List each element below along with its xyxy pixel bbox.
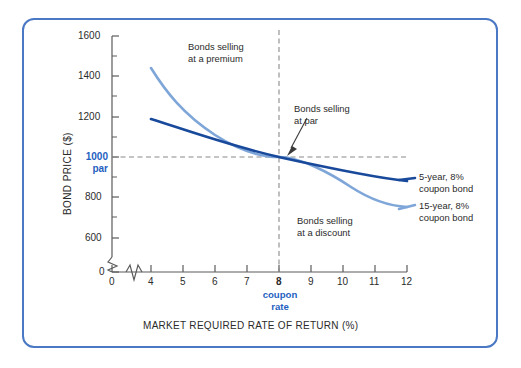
x-major-ticks (112, 265, 407, 272)
x-tick-7: 7 (244, 276, 250, 287)
x-tick-9: 9 (308, 276, 314, 287)
x-axis-title: MARKET REQUIRED RATE OF RETURN (%) (143, 320, 358, 331)
bond-price-figure: 1600 1400 1200 1000par 800 600 0 0 4 5 6… (0, 0, 521, 368)
rate-word: rate (271, 301, 289, 312)
annotation-discount: Bonds selling at a discount (297, 215, 353, 239)
legend-swatch-5-year (399, 178, 415, 180)
y-tick-0: 0 (99, 266, 105, 277)
x-tick-10: 10 (337, 276, 348, 287)
y-tick-1000-par: 1000par (68, 151, 108, 175)
y-axis-title: BOND PRICE ($) (62, 132, 73, 215)
coupon-word: coupon (263, 289, 298, 300)
x-tick-8-coupon: 8 (276, 276, 282, 287)
y-tick-1200: 1200 (78, 111, 100, 122)
par-word: par (92, 163, 108, 174)
annotation-premium: Bonds selling at a premium (188, 41, 244, 65)
annotation-par: Bonds selling at par (294, 103, 350, 127)
y-tick-1600: 1600 (78, 30, 100, 41)
y-major-ticks (112, 36, 119, 272)
x-tick-6: 6 (212, 276, 218, 287)
x-tick-4: 4 (148, 276, 154, 287)
x-tick-0: 0 (109, 276, 115, 287)
x-tick-11: 11 (369, 276, 379, 287)
legend-label-15-year: 15-year, 8% coupon bond (419, 200, 473, 224)
y-tick-800: 800 (85, 191, 102, 202)
y-minor-ticks (112, 56, 117, 217)
y-tick-600: 600 (85, 232, 102, 243)
legend-label-5-year: 5-year, 8% coupon bond (419, 171, 473, 195)
x-tick-12: 12 (401, 276, 412, 287)
x-tick-5: 5 (180, 276, 186, 287)
y-tick-1400: 1400 (78, 70, 100, 81)
par-value: 1000 (86, 151, 108, 162)
coupon-rate-label: couponrate (249, 289, 311, 312)
